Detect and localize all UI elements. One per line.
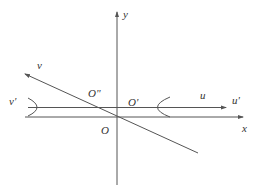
o-double-prime-label: O": [88, 88, 101, 99]
v-axis-label: v: [37, 60, 42, 71]
x-axis-label: x: [242, 123, 247, 134]
o-prime-label: O': [128, 97, 138, 108]
v-axis-line: [25, 74, 198, 153]
origin-label: O: [101, 125, 109, 136]
u-prime-axis-label: u': [232, 95, 240, 106]
y-axis-label: y: [123, 9, 128, 20]
u-axis-label: u: [200, 90, 206, 101]
v-prime-axis-label: v': [9, 96, 16, 107]
coordinate-diagram: [0, 0, 253, 193]
